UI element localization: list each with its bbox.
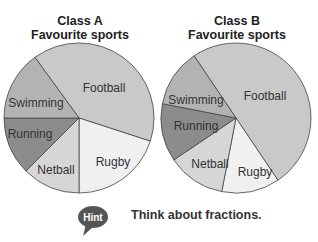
pie-charts: FootballRugbyNetballRunningSwimming Foot… — [0, 0, 318, 242]
svg-text:Hint: Hint — [83, 212, 103, 223]
slice-label-swimming: Swimming — [8, 96, 63, 110]
slice-label-running: Running — [174, 119, 219, 133]
slice-label-football: Football — [244, 89, 287, 103]
class-a-pie-chart: FootballRugbyNetballRunningSwimming — [4, 43, 154, 193]
slice-label-rugby: Rugby — [238, 165, 273, 179]
hint-badge: Hint — [77, 205, 111, 239]
slice-label-football: Football — [83, 81, 126, 95]
hint-text: Think about fractions. — [131, 208, 262, 222]
speech-bubble-icon: Hint — [77, 205, 111, 239]
slice-label-swimming: Swimming — [168, 93, 223, 107]
slice-label-running: Running — [8, 127, 53, 141]
slice-label-netball: Netball — [37, 163, 74, 177]
class-b-pie-chart: FootballRugbyNetballRunningSwimming — [161, 43, 311, 193]
slice-label-rugby: Rugby — [96, 155, 131, 169]
slice-label-netball: Netball — [191, 157, 228, 171]
